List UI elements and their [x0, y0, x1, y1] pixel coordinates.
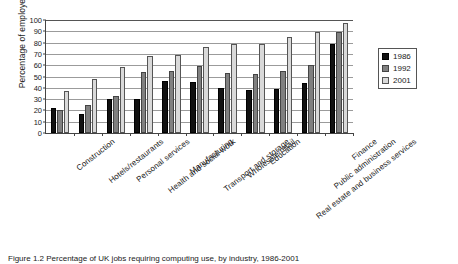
figure-caption: Figure 1.2 Percentage of UK jobs requiri… [8, 254, 454, 264]
bar-1992 [169, 71, 175, 133]
bar-1992 [113, 96, 119, 133]
bar-2001 [231, 44, 237, 133]
bar-cluster [241, 20, 269, 133]
x-axis-tick-mark [297, 133, 298, 136]
x-axis-tick-mark [186, 133, 187, 136]
x-axis-tick-mark [213, 133, 214, 136]
x-axis-tick-mark [130, 133, 131, 136]
bar-2001 [343, 23, 349, 133]
bar-2001 [64, 91, 70, 133]
legend-item: 1992 [382, 64, 411, 73]
bar-1986 [79, 114, 85, 133]
x-axis-label-construction: Construction [75, 137, 117, 172]
bar-1986 [162, 81, 168, 133]
bar-1992 [57, 110, 63, 133]
legend-label-1986: 1986 [393, 52, 411, 61]
bar-2001 [92, 79, 98, 133]
bar-1992 [141, 72, 147, 133]
bar-cluster [213, 20, 241, 133]
bar-1992 [308, 65, 314, 133]
bar-cluster [158, 20, 186, 133]
bar-1992 [336, 32, 342, 133]
bar-cluster [186, 20, 214, 133]
legend-swatch-2001 [382, 77, 389, 84]
legend-item: 1986 [382, 52, 411, 61]
bar-cluster [297, 20, 325, 133]
bar-2001 [203, 47, 209, 133]
plot-area: 0102030405060708090100 [45, 20, 353, 134]
bar-cluster [46, 20, 74, 133]
bar-1986 [107, 99, 113, 133]
bar-1986 [302, 83, 308, 133]
bar-2001 [147, 56, 153, 133]
bar-1986 [190, 82, 196, 133]
x-axis-tick-mark [74, 133, 75, 136]
bar-1992 [225, 73, 231, 133]
bar-1986 [246, 90, 252, 133]
x-axis-tick-mark [241, 133, 242, 136]
x-axis-tick-mark [353, 133, 354, 136]
x-axis-tick-mark [325, 133, 326, 136]
chart-legend: 1986 1992 2001 [378, 48, 417, 89]
bar-2001 [259, 44, 265, 133]
bar-1986 [274, 89, 280, 133]
bar-2001 [287, 37, 293, 133]
bar-cluster [130, 20, 158, 133]
bar-1986 [218, 88, 224, 133]
bar-cluster [325, 20, 353, 133]
x-axis-tick-mark [158, 133, 159, 136]
y-axis-title: Percentage of employees [17, 0, 27, 109]
bar-2001 [175, 55, 181, 133]
bar-1992 [197, 66, 203, 133]
x-axis-label-manufacturing: Manufacturing [188, 137, 235, 176]
bar-1986 [51, 108, 57, 133]
bar-1992 [253, 74, 259, 133]
x-axis-tick-mark [102, 133, 103, 136]
bar-1992 [280, 71, 286, 133]
bar-cluster [269, 20, 297, 133]
bar-1986 [330, 44, 336, 133]
bar-2001 [315, 32, 321, 133]
bar-cluster [74, 20, 102, 133]
plot-inner: 0102030405060708090100 [46, 20, 353, 133]
legend-label-2001: 2001 [393, 76, 411, 85]
legend-label-1992: 1992 [393, 64, 411, 73]
legend-item: 2001 [382, 76, 411, 85]
x-axis-tick-mark [269, 133, 270, 136]
bar-1992 [85, 105, 91, 133]
bar-1986 [134, 99, 140, 133]
bar-2001 [120, 67, 126, 133]
legend-swatch-1992 [382, 65, 389, 72]
legend-swatch-1986 [382, 53, 389, 60]
bar-cluster [102, 20, 130, 133]
